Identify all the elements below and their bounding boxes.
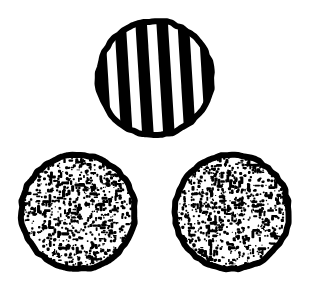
stipple-dot xyxy=(230,179,233,182)
stipple-dot xyxy=(72,258,74,260)
stipple-dot xyxy=(185,210,187,212)
stipple-dot xyxy=(95,208,97,210)
stipple-dot xyxy=(236,178,238,182)
stipple-dot xyxy=(215,259,217,261)
stipple-dot xyxy=(242,163,245,166)
stipple-dot xyxy=(226,174,229,182)
stipple-dot xyxy=(237,199,240,202)
stipple-dot xyxy=(59,190,62,193)
stipple-dot xyxy=(207,212,208,213)
stipple-dot xyxy=(209,256,212,259)
stipple-dot xyxy=(96,174,98,177)
stipple-dot xyxy=(96,227,98,231)
stipple-dot xyxy=(84,186,87,189)
stipple-dot xyxy=(224,200,225,201)
stipple-dot xyxy=(85,233,87,235)
stipple-dot xyxy=(103,187,104,188)
stipple-dot xyxy=(213,173,215,175)
stipple-dot xyxy=(121,215,123,219)
stipple-dot xyxy=(37,192,41,194)
stipple-dot xyxy=(98,189,99,190)
stipple-dot xyxy=(248,172,250,174)
stipple-dot xyxy=(93,174,94,175)
stipple-dot xyxy=(181,212,184,215)
stipple-dot xyxy=(268,196,271,199)
stipple-dot xyxy=(81,161,83,166)
stipple-dot xyxy=(280,211,282,214)
stipple-dot xyxy=(238,256,240,258)
stipple-dot xyxy=(244,239,246,241)
stipple-dot xyxy=(86,182,91,184)
stipple-dot xyxy=(45,202,47,206)
stipple-dot xyxy=(200,247,203,248)
stipple-dot xyxy=(210,243,212,249)
stipple-dot xyxy=(261,252,263,254)
stipple-dot xyxy=(52,183,53,184)
stipple-dot xyxy=(55,206,56,207)
stipple-dot xyxy=(89,231,91,233)
stipple-dot xyxy=(113,239,116,242)
stipple-dot xyxy=(124,231,125,233)
stipple-dot xyxy=(61,220,62,221)
stipple-dot xyxy=(35,207,36,208)
stipple-dot xyxy=(55,223,57,226)
stipple-dot xyxy=(61,227,63,229)
stipple-dot xyxy=(89,259,90,260)
stipple-dot xyxy=(88,195,90,197)
stipple-dot xyxy=(87,219,89,221)
stipple-dot xyxy=(273,228,276,231)
stipple-dot xyxy=(87,178,90,181)
stipple-dot xyxy=(113,175,115,177)
stipple-dot xyxy=(64,204,65,205)
stipple-dot xyxy=(108,234,111,237)
stipple-dot xyxy=(234,186,236,188)
stipple-dot xyxy=(44,195,47,198)
stipple-dot xyxy=(38,179,41,182)
stipple-dot xyxy=(121,206,122,207)
stipple-dot xyxy=(122,189,125,192)
stipple-dot xyxy=(252,169,255,172)
stipple-dot xyxy=(238,251,241,254)
stipple-dot xyxy=(100,218,102,220)
stipple-dot xyxy=(261,199,264,202)
stipple-dot xyxy=(87,240,89,242)
stipple-dot xyxy=(191,193,194,196)
stipple-dot xyxy=(69,254,72,257)
stipple-dot xyxy=(233,181,235,183)
stipple-dot xyxy=(248,219,250,221)
stipple-dot xyxy=(100,187,102,189)
stipple-dot xyxy=(25,211,27,212)
stipple-dot xyxy=(203,203,205,205)
stipple-dot xyxy=(95,188,97,190)
stipple-dot xyxy=(91,183,93,185)
stipple-dot xyxy=(112,216,113,217)
stipple-dot xyxy=(73,219,76,222)
stipple-dot xyxy=(103,169,104,171)
stipple-dot xyxy=(192,209,193,210)
stipple-dot xyxy=(65,227,68,230)
stipple-dot xyxy=(242,255,244,257)
stipple-dot xyxy=(241,200,244,206)
stipple-dot xyxy=(267,235,269,237)
stipple-dot xyxy=(33,221,34,222)
stipple-dot xyxy=(189,181,192,184)
stipple-dot xyxy=(126,212,129,216)
stipple-dot xyxy=(38,226,40,228)
stipple-dot xyxy=(90,167,92,171)
stipple-dot xyxy=(54,249,55,252)
stipple-dot xyxy=(199,202,202,208)
stipple-dot xyxy=(239,177,241,179)
stipple-dot xyxy=(57,197,63,200)
stipple-dot xyxy=(204,222,206,224)
stipple-dot xyxy=(79,237,81,239)
stipple-dot xyxy=(58,175,61,178)
stipple-dot xyxy=(253,255,255,257)
stipple-dot xyxy=(48,223,50,225)
stipple-dot xyxy=(207,189,209,191)
stipple-dot xyxy=(207,203,209,205)
stipple-dot xyxy=(86,174,89,175)
stipple-dot xyxy=(101,197,107,200)
stipple-dot xyxy=(84,250,86,252)
stipple-dot xyxy=(213,168,216,171)
stipple-dot xyxy=(94,191,95,192)
